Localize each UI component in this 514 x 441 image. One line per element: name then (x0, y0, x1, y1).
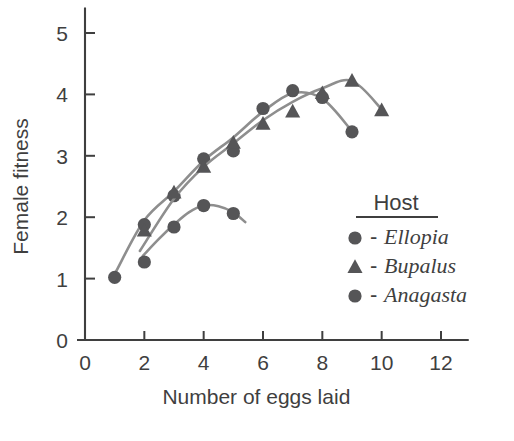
scatter-plot: 024681012012345Number of eggs laidFemale… (0, 0, 514, 441)
x-tick-label-12: 12 (429, 351, 452, 374)
data-point-ellopia-0 (108, 271, 121, 284)
data-point-ellopia-5 (256, 102, 269, 115)
x-tick-label-6: 6 (257, 351, 269, 374)
legend-dash-anagasta: - (370, 282, 377, 307)
legend-dash-ellopia: - (370, 224, 377, 249)
data-point-ellopia-6 (286, 84, 299, 97)
data-point-anagasta-1 (167, 220, 180, 233)
x-tick-label-2: 2 (138, 351, 150, 374)
legend-marker-anagasta (348, 289, 361, 302)
legend-title: Host (373, 190, 418, 215)
fit-curve-ellopia (116, 92, 352, 271)
chart-container: 024681012012345Number of eggs laidFemale… (0, 0, 514, 441)
y-tick-label-0: 0 (56, 329, 68, 352)
x-tick-label-4: 4 (198, 351, 210, 374)
data-point-anagasta-0 (138, 255, 151, 268)
y-tick-label-3: 3 (56, 145, 68, 168)
legend-label-ellopia: Ellopia (383, 224, 449, 249)
legend-marker-ellopia (348, 231, 361, 244)
x-tick-label-10: 10 (370, 351, 393, 374)
legend-label-bupalus: Bupalus (384, 253, 456, 278)
data-series (108, 73, 389, 284)
y-tick-label-1: 1 (56, 268, 68, 291)
x-axis-title: Number of eggs laid (162, 385, 350, 408)
y-axis-title: Female fitness (9, 118, 32, 255)
legend-dash-bupalus: - (370, 253, 377, 278)
data-point-anagasta-3 (227, 207, 240, 220)
y-tick-label-2: 2 (56, 206, 68, 229)
legend: Host-Ellopia-Bupalus-Anagasta (347, 190, 467, 307)
legend-label-anagasta: Anagasta (382, 282, 467, 307)
x-tick-label-0: 0 (79, 351, 91, 374)
y-tick-label-4: 4 (56, 83, 68, 106)
legend-marker-bupalus (347, 259, 362, 273)
x-tick-label-8: 8 (316, 351, 328, 374)
y-tick-label-5: 5 (56, 22, 68, 45)
data-point-ellopia-8 (345, 125, 358, 138)
data-point-anagasta-2 (197, 199, 210, 212)
